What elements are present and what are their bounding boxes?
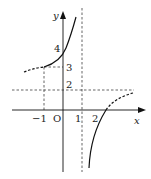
origin-label: O	[53, 113, 61, 124]
x-axis-arrow-icon	[138, 107, 146, 113]
y-tick-label-2: 2	[66, 79, 72, 90]
y-axis-arrow-icon	[60, 11, 66, 19]
x-tick-label-2: 2	[92, 113, 98, 124]
left-branch-dashed	[24, 67, 44, 72]
left-branch-solid	[44, 17, 76, 67]
x-tick-label-neg1: −1	[32, 113, 47, 124]
y-tick-label-3: 3	[66, 62, 72, 73]
y-axis-label: y	[52, 10, 59, 21]
x-axis-label: x	[134, 115, 140, 126]
x-tick-label-1: 1	[75, 113, 81, 124]
right-branch-dashed	[106, 93, 133, 110]
y-tick-label-4: 4	[54, 43, 60, 54]
y-axis	[60, 11, 66, 172]
function-graph: y x O −1 1 2 2 3 4	[0, 0, 151, 179]
